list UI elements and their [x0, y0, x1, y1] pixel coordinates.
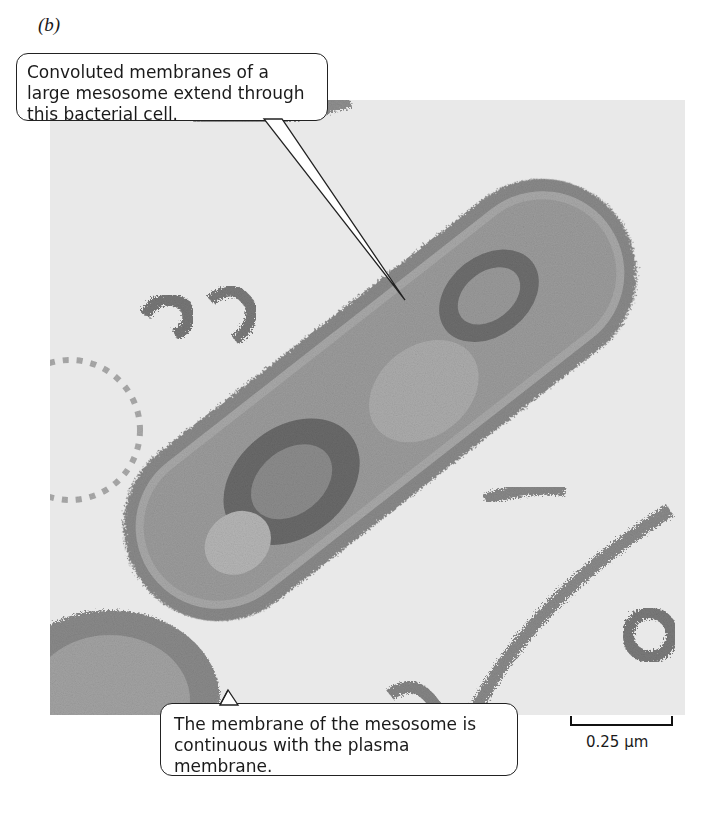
callout-plasma-membrane: The membrane of the mesosome is continuo… [160, 703, 518, 776]
callout-mesosome-membranes: Convoluted membranes of a large mesosome… [16, 53, 328, 121]
panel-label: (b) [38, 14, 60, 36]
scale-bar [570, 716, 673, 726]
scale-bar-label: 0.25 µm [586, 733, 648, 751]
electron-micrograph [50, 100, 685, 715]
